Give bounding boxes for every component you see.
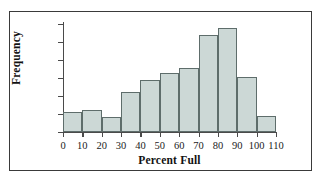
plot-area: 0102030405060 0102030405060708090100110 … <box>0 0 323 182</box>
histogram-bar <box>160 73 179 132</box>
x-axis-tick <box>140 132 141 137</box>
histogram-bar <box>102 117 121 132</box>
y-axis-tick <box>58 60 63 61</box>
x-axis-tick <box>199 132 200 137</box>
x-axis-tick <box>237 132 238 137</box>
histogram-bar <box>199 35 218 132</box>
y-axis-label: Frequency <box>10 18 22 98</box>
y-axis-tick <box>58 114 63 115</box>
x-axis-tick-label: 110 <box>261 140 291 151</box>
x-axis-tick <box>179 132 180 137</box>
x-axis-tick <box>63 132 64 137</box>
histogram-bar <box>140 80 159 132</box>
x-axis-tick <box>102 132 103 137</box>
histogram-bar <box>82 110 101 132</box>
x-axis-tick <box>276 132 277 137</box>
x-axis-tick <box>160 132 161 137</box>
x-axis-tick <box>82 132 83 137</box>
x-axis-tick <box>218 132 219 137</box>
y-axis-tick <box>58 42 63 43</box>
x-axis-line <box>63 132 276 133</box>
histogram-bar <box>257 116 276 132</box>
histogram-bar <box>63 112 82 132</box>
histogram-bar <box>218 28 237 132</box>
y-axis-tick <box>58 78 63 79</box>
histogram-bar <box>179 68 198 132</box>
x-axis-tick <box>257 132 258 137</box>
histogram-figure: 0102030405060 0102030405060708090100110 … <box>0 0 323 182</box>
x-axis-label: Percent Full <box>63 154 276 166</box>
y-axis-tick <box>58 24 63 25</box>
x-axis-tick <box>121 132 122 137</box>
y-axis-tick <box>58 96 63 97</box>
histogram-bar <box>237 77 256 132</box>
histogram-bar <box>121 92 140 132</box>
